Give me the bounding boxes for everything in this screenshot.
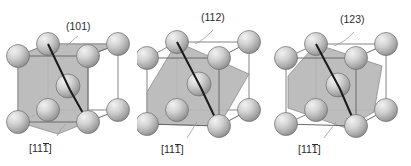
atom-sphere	[137, 47, 159, 70]
atom-sphere	[166, 99, 189, 122]
plane-label-123: (123)	[340, 14, 365, 25]
direction-label-suffix: ]	[49, 142, 52, 154]
atom-sphere	[275, 47, 298, 70]
direction-label-111bar: [111]	[161, 144, 184, 155]
unit-cell-panel-112: (112) [111]	[137, 0, 274, 166]
plane-label-101: (101)	[66, 21, 91, 32]
crystal-plane-figure: (101) [111]	[0, 0, 411, 166]
direction-label-111bar: [111]	[29, 143, 52, 154]
direction-label-prefix: [11	[29, 142, 43, 154]
direction-label-overbar-digit: 1	[43, 143, 49, 154]
direction-label-overbar-digit: 1	[312, 144, 318, 155]
unit-cell-panel-101: (101) [111]	[0, 0, 137, 166]
atom-sphere	[238, 99, 261, 122]
direction-label-suffix: ]	[318, 143, 321, 155]
direction-label-suffix: ]	[181, 143, 184, 155]
atom-sphere	[107, 33, 130, 56]
direction-label-overbar-digit: 1	[175, 144, 181, 155]
unit-cell-diagram-112	[137, 0, 274, 166]
atom-sphere	[208, 115, 231, 138]
direction-label-prefix: [11	[161, 143, 175, 155]
atom-sphere	[77, 45, 100, 68]
atom-sphere	[77, 111, 100, 134]
atom-sphere	[208, 47, 231, 70]
plane-label-112: (112)	[201, 12, 225, 23]
atom-sphere	[7, 45, 30, 68]
atom-sphere	[137, 113, 159, 136]
atom-sphere	[107, 99, 130, 122]
atom-sphere	[305, 99, 328, 122]
atom-sphere	[345, 115, 368, 138]
atom-sphere	[7, 111, 30, 134]
atom-sphere	[375, 33, 398, 56]
atom-sphere	[375, 99, 398, 122]
direction-label-111bar: [111]	[298, 144, 321, 155]
atom-sphere	[37, 99, 60, 122]
direction-label-prefix: [11	[298, 143, 312, 155]
atom-sphere	[238, 31, 261, 54]
atom-sphere	[275, 113, 298, 136]
atom-sphere	[345, 47, 368, 70]
unit-cell-panel-123: (123) [111]	[274, 0, 411, 166]
